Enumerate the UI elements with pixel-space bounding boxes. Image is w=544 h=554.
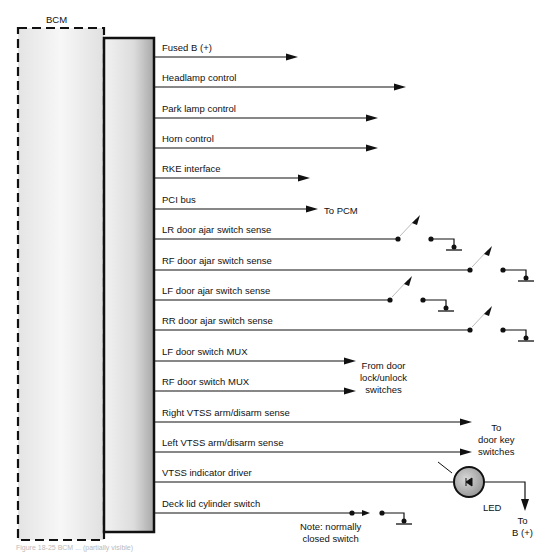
signal-label: RKE interface [162,163,221,174]
to-b-plus-note: To B (+) [512,515,533,539]
signal-label: Left VTSS arm/disarm sense [162,437,283,448]
signal-label: PCI bus [162,194,196,205]
signal-label: LF door ajar switch sense [162,285,270,296]
signal-label: Deck lid cylinder switch [162,498,260,509]
signal-label: RF door switch MUX [162,376,249,387]
nc-switch-note: Note: normally closed switch [300,521,361,545]
from-door-lock-note: From door lock/unlock switches [360,360,407,396]
bcm-wiring-diagram [0,0,544,554]
signal-label: Right VTSS arm/disarm sense [162,407,290,418]
signal-label: VTSS indicator driver [162,467,252,478]
signal-label: Headlamp control [162,72,236,83]
bcm-label: BCM [46,14,67,25]
bcm-connector-block [104,38,154,532]
signal-label: LF door switch MUX [162,346,248,357]
signal-label: RR door ajar switch sense [162,315,273,326]
signal-label: RF door ajar switch sense [162,255,272,266]
signal-label: Horn control [162,133,214,144]
led-label: LED [483,502,501,513]
signal-label: Fused B (+) [162,42,212,53]
to-pcm-label: To PCM [324,205,358,216]
signal-label: Park lamp control [162,103,236,114]
bcm-dashed-outline [18,28,104,540]
to-door-key-note: To door key switches [478,422,514,458]
signal-label: LR door ajar switch sense [162,224,271,235]
figure-caption: Figure 18-25 BCM ... (partially visible) [16,544,133,551]
